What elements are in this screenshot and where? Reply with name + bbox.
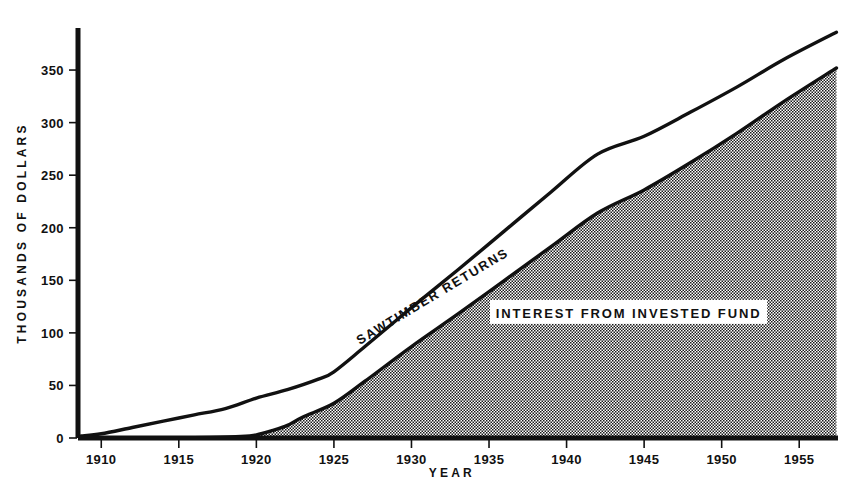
x-tick-label: 1910 [86, 452, 117, 467]
interest-area [81, 68, 836, 438]
y-tick-label: 50 [49, 378, 64, 393]
y-tick-label: 0 [56, 431, 64, 446]
x-tick-label: 1945 [629, 452, 660, 467]
y-tick-label: 350 [41, 63, 64, 78]
x-axis-title: YEAR [429, 466, 475, 480]
x-tick-label: 1930 [396, 452, 427, 467]
chart-page: 050100150200250300350 191019151920192519… [0, 0, 842, 489]
y-tick-label: 250 [41, 168, 64, 183]
x-tick-label: 1955 [784, 452, 815, 467]
x-tick-label: 1915 [164, 452, 195, 467]
chart-canvas: 050100150200250300350 191019151920192519… [0, 0, 842, 489]
x-axis-ticks: 1910191519201925193019351940194519501955 [86, 439, 814, 467]
x-tick-label: 1920 [241, 452, 272, 467]
y-tick-label: 150 [41, 273, 64, 288]
x-tick-label: 1925 [319, 452, 350, 467]
y-tick-label: 300 [41, 116, 64, 131]
y-axis-ticks: 050100150200250300350 [41, 63, 77, 446]
x-tick-label: 1940 [551, 452, 582, 467]
legend-label-interest: INTEREST FROM INVESTED FUND [496, 306, 762, 321]
y-axis-title: THOUSANDS OF DOLLARS [15, 122, 29, 343]
y-tick-label: 200 [41, 221, 64, 236]
x-tick-label: 1950 [706, 452, 737, 467]
x-tick-label: 1935 [474, 452, 505, 467]
y-tick-label: 100 [41, 326, 64, 341]
